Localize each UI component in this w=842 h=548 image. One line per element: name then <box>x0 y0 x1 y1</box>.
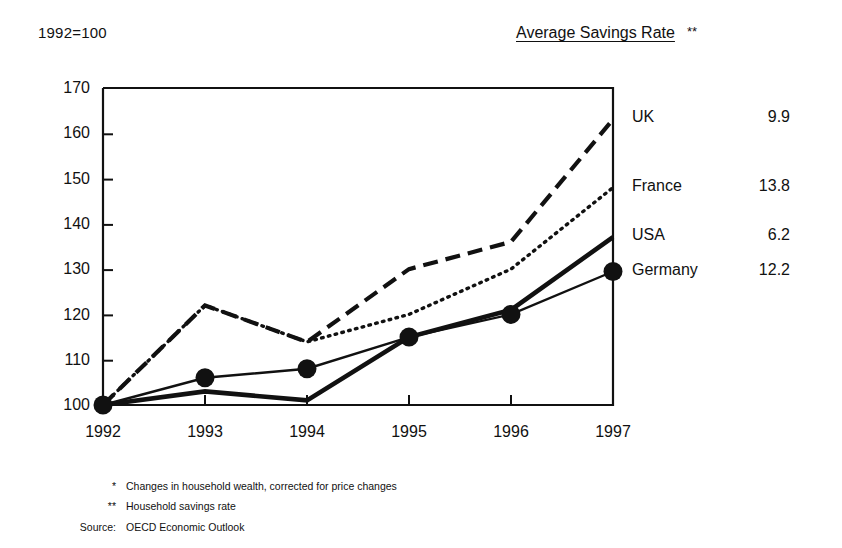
x-tick-label-1993: 1993 <box>165 423 245 441</box>
legend-label-usa: USA <box>632 226 665 244</box>
legend-value-france: 13.8 <box>730 177 790 195</box>
legend-label-germany: Germany <box>632 261 698 279</box>
footnote-row: ** Household savings rate <box>38 496 397 516</box>
y-tick-label-160: 160 <box>34 124 90 142</box>
data-point-marker <box>298 359 317 378</box>
y-tick-label-120: 120 <box>34 306 90 324</box>
y-axis-ticks <box>103 134 113 360</box>
x-tick-label-1992: 1992 <box>63 423 143 441</box>
legend-value-usa: 6.2 <box>730 226 790 244</box>
data-point-marker <box>502 305 521 324</box>
x-tick-label-1994: 1994 <box>267 423 347 441</box>
x-tick-label-1996: 1996 <box>471 423 551 441</box>
source-text: OECD Economic Outlook <box>126 517 244 537</box>
legend-label-uk: UK <box>632 108 654 126</box>
data-point-marker <box>196 368 215 387</box>
y-tick-label-130: 130 <box>34 260 90 278</box>
footnote-text: Changes in household wealth, corrected f… <box>126 476 397 496</box>
series-line-usa <box>103 237 613 405</box>
y-tick-label-100: 100 <box>34 396 90 414</box>
source-label: Source: <box>38 517 126 537</box>
plot-frame <box>103 88 613 405</box>
footnote-row: * Changes in household wealth, corrected… <box>38 476 397 496</box>
line-chart <box>0 0 842 548</box>
legend-value-germany: 12.2 <box>730 261 790 279</box>
data-point-marker <box>604 262 623 281</box>
legend-value-uk: 9.9 <box>730 108 790 126</box>
series-line-uk <box>103 119 613 405</box>
series-line-france <box>103 188 613 405</box>
footnotes: * Changes in household wealth, corrected… <box>38 476 397 537</box>
source-row: Source: OECD Economic Outlook <box>38 517 397 537</box>
footnote-text: Household savings rate <box>126 496 236 516</box>
data-point-marker <box>400 328 419 347</box>
footnote-marker: ** <box>38 496 126 516</box>
y-tick-label-150: 150 <box>34 170 90 188</box>
legend-label-france: France <box>632 177 682 195</box>
footnote-marker: * <box>38 476 126 496</box>
data-point-marker <box>94 396 113 415</box>
y-tick-label-140: 140 <box>34 215 90 233</box>
chart-svg <box>0 0 842 548</box>
x-tick-label-1997: 1997 <box>573 423 653 441</box>
y-tick-label-110: 110 <box>34 351 90 369</box>
x-tick-label-1995: 1995 <box>369 423 449 441</box>
y-tick-label-170: 170 <box>34 79 90 97</box>
